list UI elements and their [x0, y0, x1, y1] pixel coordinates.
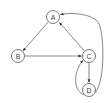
- edge-c-to-a: [60, 23, 85, 51]
- graph-diagram: A B C D: [0, 0, 109, 103]
- edge-d-to-a: [61, 13, 103, 93]
- graph-svg: A B C D: [0, 0, 109, 103]
- node-a: A: [47, 11, 60, 24]
- node-d: D: [83, 84, 96, 97]
- node-c: C: [83, 50, 96, 63]
- node-d-label: D: [86, 87, 91, 94]
- node-a-label: A: [51, 14, 56, 21]
- node-b-label: B: [16, 53, 21, 60]
- edge-a-to-b: [23, 22, 49, 52]
- node-c-label: C: [86, 53, 91, 60]
- node-b: B: [12, 50, 25, 63]
